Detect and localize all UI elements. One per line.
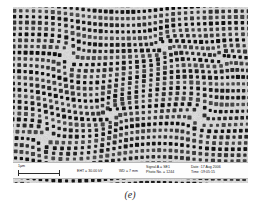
eht-value: EHT = 30.00 kV [77,169,102,174]
photo-number-value: Photo No. = 1244 [146,170,174,175]
nanodot-array-pattern [13,7,248,183]
scale-bar-rule [18,173,60,174]
sem-info-bar: 1µm EHT = 30.00 kV WD = 7 mm Signal A = … [13,162,248,179]
scale-bar-label: 1µm [18,164,25,169]
signal-info-group: Signal A = SE1 Photo No. = 1244 [146,165,174,175]
datetime-info-group: Date :17 Aug 2006 Time :19:05:15 [191,165,221,175]
working-distance-value: WD = 7 mm [119,169,138,174]
sem-micrograph-image: 1µm EHT = 30.00 kV WD = 7 mm Signal A = … [13,7,248,183]
scale-bar: 1µm [17,164,65,179]
sem-figure: 1µm EHT = 30.00 kV WD = 7 mm Signal A = … [0,0,260,213]
time-value: Time :19:05:15 [191,170,221,175]
figure-caption: (e) [0,189,260,200]
